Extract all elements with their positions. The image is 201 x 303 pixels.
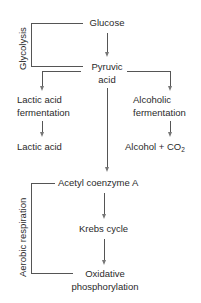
co2-subscript: 2 — [181, 146, 185, 153]
arrow-lactic-icon — [40, 132, 44, 137]
arrow-to-alcoholic-fermentation-icon — [168, 86, 172, 91]
node-alcoholic-fermentation-line2: fermentation — [133, 107, 186, 119]
node-alcohol-co2: Alcohol + CO2 — [125, 141, 185, 156]
node-alcoholic-fermentation-line1: Alcoholic — [133, 94, 171, 106]
aerobic-respiration-label: Aerobic respiration — [17, 198, 28, 277]
node-pyruvic-line2: acid — [82, 74, 132, 86]
arrow-acetyl-krebs-icon — [102, 214, 106, 219]
node-glucose: Glucose — [82, 17, 132, 29]
arrow-krebs-oxidative-icon — [102, 260, 106, 265]
node-lactic-acid: Lactic acid — [17, 141, 62, 153]
branch-left-horizontal — [42, 71, 81, 72]
aerobic-bracket-top — [31, 183, 55, 184]
branch-right-horizontal — [127, 71, 170, 72]
arrow-pyruvic-acetyl-line — [107, 88, 108, 168]
arrow-glucose-pyruvic-line — [107, 33, 108, 53]
node-lactic-fermentation-line2: fermentation — [17, 107, 70, 119]
node-lactic-fermentation-line1: Lactic acid — [17, 94, 62, 106]
arrow-acetyl-krebs-line — [104, 193, 105, 215]
node-oxidative-line1: Oxidative — [67, 268, 143, 280]
arrow-pyruvic-acetyl-icon — [105, 167, 109, 172]
arrow-to-lactic-fermentation-icon — [40, 86, 44, 91]
glycolysis-bracket-side — [31, 23, 32, 67]
arrow-krebs-oxidative-line — [104, 239, 105, 261]
arrow-glucose-pyruvic-icon — [105, 52, 109, 57]
glycolysis-label: Glycolysis — [17, 27, 28, 70]
alcohol-co2-text: Alcohol + CO — [125, 141, 181, 152]
node-pyruvic-line1: Pyruvic — [82, 61, 132, 73]
node-krebs-cycle: Krebs cycle — [79, 223, 128, 235]
glycolysis-bracket-bottom — [31, 66, 83, 67]
glycolysis-bracket-top — [31, 23, 83, 24]
node-acetyl-coa: Acetyl coenzyme A — [58, 177, 138, 189]
aerobic-bracket-side — [31, 183, 32, 274]
node-oxidative-line2: phosphorylation — [62, 281, 148, 293]
arrow-alcohol-icon — [168, 132, 172, 137]
